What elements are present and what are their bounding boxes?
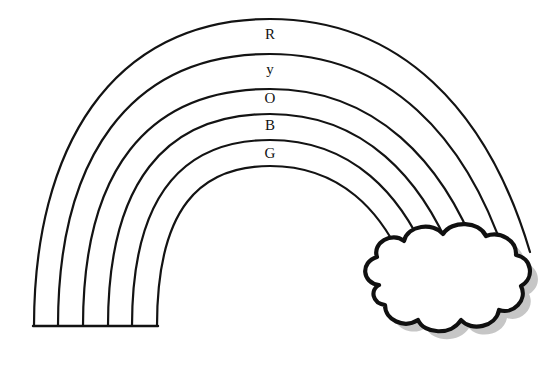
rainbow-illustration: R y O B G	[0, 0, 557, 367]
cloud-group	[365, 224, 538, 339]
band-letter-green: G	[265, 145, 276, 161]
coloring-page-canvas: R y O B G	[0, 0, 557, 367]
band-letter-orange: O	[265, 90, 276, 106]
band-letter-labels: R y O B G	[265, 26, 276, 161]
arc-inner-green-inside	[157, 166, 409, 326]
band-letter-blue: B	[265, 117, 275, 133]
band-letter-yellow: y	[266, 61, 274, 77]
band-letter-red: R	[265, 26, 275, 42]
